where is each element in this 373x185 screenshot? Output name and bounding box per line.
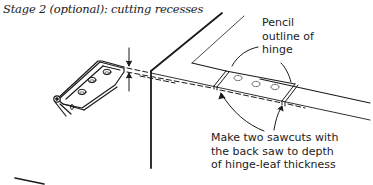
stray-mark bbox=[15, 178, 44, 184]
hinge bbox=[54, 61, 124, 116]
thickness-arrows bbox=[127, 48, 132, 91]
recess-outline bbox=[214, 71, 298, 106]
sawcuts-label: Make two sawcuts with the back saw to de… bbox=[211, 131, 338, 172]
leader-lines bbox=[219, 47, 291, 131]
pencil-outline-label: Pencil outline of hinge bbox=[262, 16, 314, 57]
